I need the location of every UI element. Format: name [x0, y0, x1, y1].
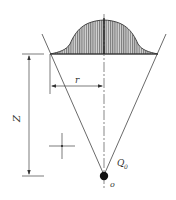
label-z: Z — [11, 114, 22, 123]
source-point — [100, 172, 108, 180]
z-arrow-top — [27, 55, 30, 60]
r-arrow-right — [98, 84, 103, 87]
label-q0-subscript: 0 — [124, 163, 128, 170]
cone-left-edge — [42, 34, 104, 175]
diagram-canvas: Z r Q 0 o — [0, 0, 176, 200]
cone-right-edge — [104, 34, 166, 175]
crosshair-center — [61, 145, 63, 147]
label-r: r — [75, 75, 80, 85]
z-arrow-bottom — [27, 170, 30, 175]
r-arrow-left — [51, 84, 56, 87]
label-origin: o — [110, 180, 115, 189]
cone-diagram: Z r Q 0 o — [0, 0, 176, 200]
